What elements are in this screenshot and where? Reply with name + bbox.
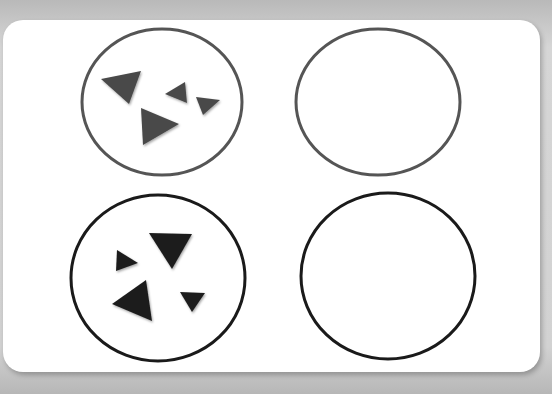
sorting-diagram — [0, 0, 552, 394]
circle-bottom-right[interactable] — [301, 193, 475, 359]
circle-bottom-left[interactable] — [71, 195, 245, 361]
circle-top-left[interactable] — [82, 29, 242, 175]
circle-top-right[interactable] — [296, 29, 460, 175]
